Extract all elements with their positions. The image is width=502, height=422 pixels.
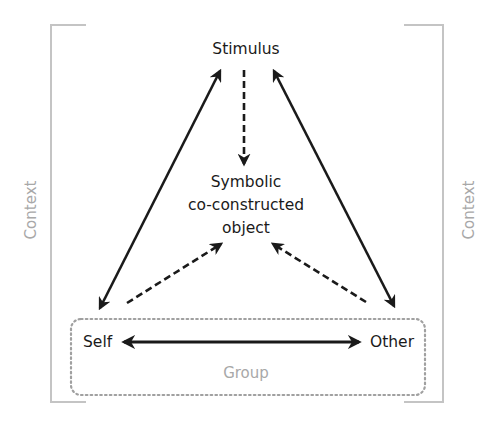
group-label: Group xyxy=(223,364,269,382)
arrow-self-stimulus xyxy=(100,71,220,308)
context-label-right: Context xyxy=(460,181,478,240)
object-label-line1: Symbolic xyxy=(211,173,282,191)
symbolic-object-node: Symbolic co-constructed object xyxy=(188,173,304,237)
object-label-line2: co-constructed xyxy=(188,196,304,214)
arrow-other-object xyxy=(273,244,366,302)
object-label-line3: object xyxy=(222,219,270,237)
self-node: Self xyxy=(83,333,113,351)
context-label-left: Context xyxy=(22,181,40,240)
arrow-other-stimulus xyxy=(274,71,394,306)
stimulus-node: Stimulus xyxy=(212,40,279,58)
context-bracket-left xyxy=(51,25,86,402)
diagram-canvas: Context Context Group Stimulus Symbolic … xyxy=(0,0,502,422)
other-node: Other xyxy=(370,333,415,351)
arrow-self-object xyxy=(127,244,221,303)
group-container xyxy=(71,319,425,395)
